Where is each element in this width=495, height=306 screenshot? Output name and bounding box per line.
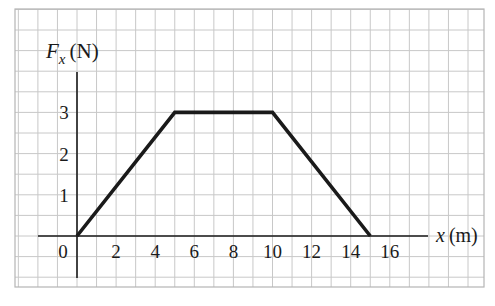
x-tick-label: 10 bbox=[263, 241, 282, 262]
y-axis-label: Fx(N) bbox=[45, 39, 99, 67]
x-tick-labels: 0246810121416 bbox=[58, 241, 399, 262]
x-tick-label: 14 bbox=[341, 241, 361, 262]
x-tick-label: 8 bbox=[229, 241, 239, 262]
x-axis-unit: (m) bbox=[449, 224, 478, 247]
y-axis-variable: F bbox=[45, 39, 59, 63]
y-tick-label: 1 bbox=[59, 185, 69, 206]
x-tick-label: 2 bbox=[111, 241, 121, 262]
x-axis-variable: x bbox=[435, 224, 445, 246]
x-tick-label: 12 bbox=[302, 241, 321, 262]
y-tick-label: 2 bbox=[59, 144, 69, 165]
y-tick-label: 3 bbox=[59, 102, 69, 123]
y-axis-subscript: x bbox=[58, 51, 66, 67]
x-axis-label: x(m) bbox=[435, 224, 478, 247]
x-tick-label: 4 bbox=[150, 241, 160, 262]
x-tick-label: 0 bbox=[58, 241, 68, 262]
force-vs-position-chart: 0246810121416 123 Fx(N) x(m) bbox=[0, 0, 495, 306]
y-axis-unit: (N) bbox=[70, 39, 99, 63]
y-tick-labels: 123 bbox=[59, 102, 69, 205]
x-tick-label: 6 bbox=[190, 241, 200, 262]
x-tick-label: 16 bbox=[380, 241, 399, 262]
